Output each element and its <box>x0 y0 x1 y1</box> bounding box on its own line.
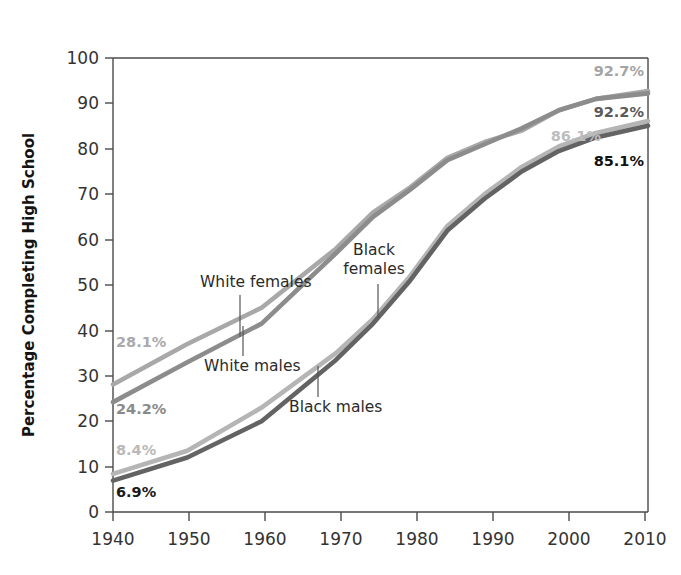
annotation-white-females: White females <box>200 273 312 291</box>
axes-frame <box>113 58 648 512</box>
x-tick-label-1940: 1940 <box>91 529 134 549</box>
x-tick-label-1960: 1960 <box>243 529 286 549</box>
y-tick-label-80: 80 <box>77 139 99 159</box>
x-tick-label-1990: 1990 <box>471 529 514 549</box>
value-label-black-males-start: 6.9% <box>116 484 157 500</box>
x-tick-label-1980: 1980 <box>395 529 438 549</box>
y-tick-label-40: 40 <box>77 321 99 341</box>
value-label-white-females-end: 92.7% <box>594 63 645 79</box>
y-tick-label-100: 100 <box>67 48 99 68</box>
y-axis-title: Percentage Completing High School <box>20 133 38 437</box>
line-chart-svg: 100 90 80 70 60 50 40 30 20 10 0 1940 19 <box>0 0 681 575</box>
x-axis-ticks <box>113 512 645 521</box>
value-label-white-males-start: 24.2% <box>116 401 167 417</box>
y-tick-label-20: 20 <box>77 411 99 431</box>
y-tick-label-0: 0 <box>88 502 99 522</box>
x-axis-tick-labels: 1940 1950 1960 1970 1980 1990 2000 2010 <box>91 529 666 549</box>
x-tick-label-1950: 1950 <box>167 529 210 549</box>
y-tick-label-50: 50 <box>77 275 99 295</box>
value-label-black-males-end: 85.1% <box>594 153 645 169</box>
y-tick-label-30: 30 <box>77 366 99 386</box>
end-value-labels: 92.7% 92.2% 86.1% 85.1% <box>551 63 645 169</box>
x-tick-label-1970: 1970 <box>319 529 362 549</box>
value-label-white-females-start: 28.1% <box>116 334 167 350</box>
value-label-white-males-end: 92.2% <box>594 104 645 120</box>
series-line-black-males <box>113 126 648 481</box>
x-tick-label-2000: 2000 <box>547 529 590 549</box>
series-line-black-females <box>113 121 648 474</box>
annotation-black-males: Black males <box>289 398 382 416</box>
y-tick-label-10: 10 <box>77 457 99 477</box>
y-axis-ticks <box>105 58 113 512</box>
y-axis-tick-labels: 100 90 80 70 60 50 40 30 20 10 0 <box>67 48 99 522</box>
y-tick-label-60: 60 <box>77 230 99 250</box>
series-lines <box>113 91 648 481</box>
annotation-white-males: White males <box>204 357 301 375</box>
y-tick-label-70: 70 <box>77 184 99 204</box>
annotation-black-females-line1: Blackfemales <box>343 241 405 278</box>
chart-figure: 100 90 80 70 60 50 40 30 20 10 0 1940 19 <box>0 0 681 575</box>
value-label-black-females-start: 8.4% <box>116 442 157 458</box>
y-tick-label-90: 90 <box>77 93 99 113</box>
value-label-black-females-end: 86.1% <box>551 128 602 144</box>
x-tick-label-2010: 2010 <box>623 529 666 549</box>
